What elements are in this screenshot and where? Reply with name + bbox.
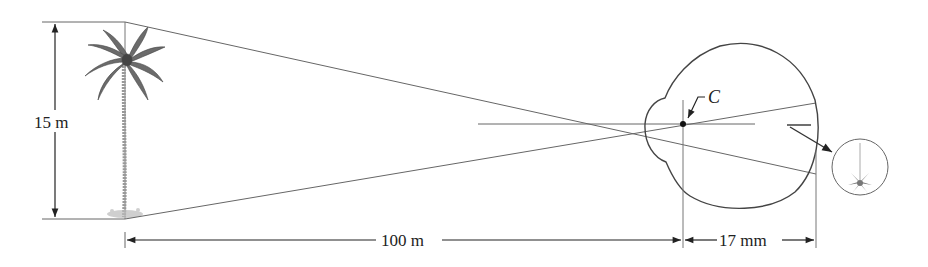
height-label: 15 m (34, 113, 68, 132)
inset-inverted-tree (832, 139, 888, 195)
optical-center-label: C (708, 87, 721, 107)
distance-label: 100 m (381, 231, 424, 250)
optical-center-leader (688, 97, 705, 118)
eyeball-outline (645, 43, 818, 208)
light-rays (125, 22, 816, 219)
image-distance-label: 17 mm (719, 231, 767, 250)
palm-tree-icon (85, 22, 165, 219)
inset-pointer-arrow (790, 127, 832, 152)
eye-image-formation-diagram: 15 m C (0, 0, 928, 267)
optical-center-point (680, 121, 686, 127)
